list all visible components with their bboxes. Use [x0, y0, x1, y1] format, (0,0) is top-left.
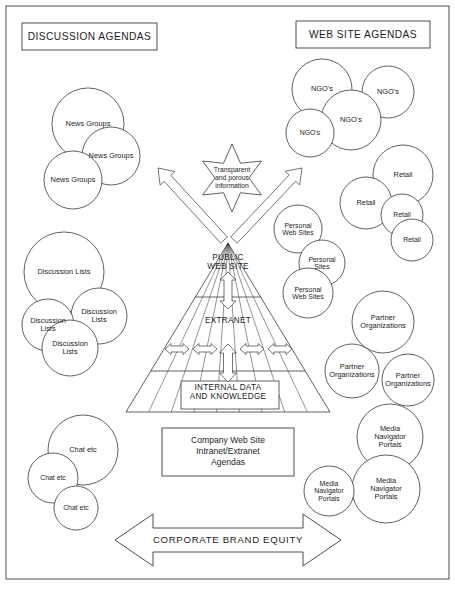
circle-ngos-3	[286, 109, 334, 157]
header-box-web-site-agendas	[296, 21, 430, 48]
diagram-canvas: DISCUSSION AGENDASWEB SITE AGENDASNews G…	[0, 0, 455, 596]
circle-media-navigator-portals-1	[352, 455, 420, 523]
circle-retail-3	[391, 219, 433, 261]
circle-personal-web-sites-2	[283, 268, 333, 318]
circle-media-navigator-portals-2	[304, 466, 354, 516]
circle-partner-organizations-2	[382, 354, 434, 406]
circle-news-groups-2	[44, 151, 102, 209]
circle-discussion-lists-3	[42, 320, 98, 376]
footer-box	[162, 428, 294, 476]
diagram-vector-layer	[0, 0, 455, 596]
internal-data-box	[181, 381, 279, 409]
header-box-discussion-agendas	[22, 23, 157, 50]
circle-partner-organizations-0	[352, 291, 414, 353]
circle-chat-etc-2	[54, 486, 98, 530]
circle-partner-organizations-1	[325, 344, 379, 398]
